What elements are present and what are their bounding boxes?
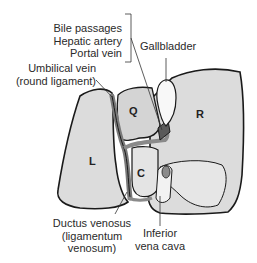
ductus-venosus-lower [128, 198, 152, 200]
ivc-opening [162, 166, 170, 178]
label-ductus-line2: (ligamentum [48, 230, 136, 243]
label-portal-vein: Portal vein [40, 47, 122, 60]
label-bile-passages: Bile passages [40, 22, 122, 35]
lobe-label-quadrate: Q [129, 105, 138, 117]
label-ductus-line1: Ductus venosus [48, 217, 136, 230]
label-ivc: Inferior vena cava [132, 227, 188, 252]
quadrate-lobe [117, 87, 160, 140]
caudate-lobe [132, 147, 158, 197]
lobe-label-caudate: C [137, 167, 145, 179]
label-umbilical-vein: Umbilical vein (round ligament) [10, 62, 96, 87]
label-ductus-venosus: Ductus venosus (ligamentum venosum) [48, 217, 136, 255]
label-hepatic-artery: Hepatic artery [40, 35, 122, 48]
label-ivc-line1: Inferior [132, 227, 188, 240]
lobe-label-left: L [89, 155, 96, 167]
label-portal-group: Bile passages Hepatic artery Portal vein [40, 22, 122, 60]
label-gallbladder: Gallbladder [140, 40, 196, 53]
label-ductus-line3: venosum) [48, 242, 136, 255]
lobe-label-right: R [196, 108, 204, 120]
label-umbilical-vein-line1: Umbilical vein [10, 62, 96, 75]
label-umbilical-vein-line2: (round ligament) [10, 75, 96, 88]
portal-bracket [125, 14, 131, 62]
label-ivc-line2: vena cava [132, 240, 188, 253]
